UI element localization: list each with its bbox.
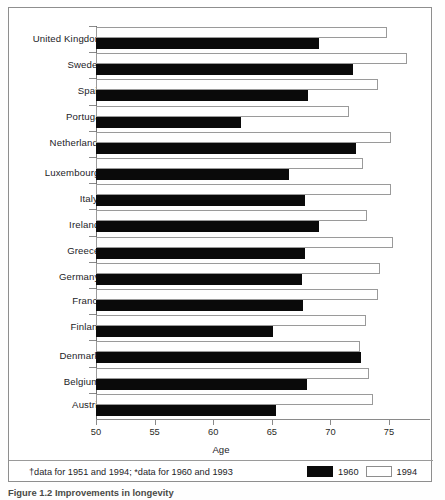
bar-1960 [96, 405, 276, 416]
bar-1994 [96, 158, 363, 169]
y-axis-tick [89, 183, 96, 184]
x-tick-mark [389, 419, 390, 425]
x-tick-mark [213, 419, 214, 425]
x-tick-mark [272, 419, 273, 425]
bar-1960 [96, 352, 361, 363]
category-label: Portugal [0, 111, 103, 122]
bar-1994 [96, 394, 373, 405]
bar-1994 [96, 106, 349, 117]
bar-1960 [96, 379, 307, 390]
category-label: Germany* [0, 268, 103, 282]
x-tick-mark [330, 419, 331, 425]
y-axis-tick [89, 393, 96, 394]
bar-1960 [96, 221, 319, 232]
legend-item: 1960 [307, 466, 358, 477]
bar-1994 [96, 79, 378, 90]
x-axis-title: Age [9, 444, 433, 455]
bar-1994 [96, 289, 378, 300]
category-label: Belgium* [0, 373, 103, 387]
x-tick-label: 50 [91, 427, 101, 437]
bar-1960 [96, 300, 303, 311]
y-axis-tick [89, 314, 96, 315]
bar-1994 [96, 341, 360, 352]
category-label: France [0, 295, 103, 306]
plot-area: United KingdomSwedenSpainPortugalNetherl… [9, 8, 433, 483]
bar-1960 [96, 143, 356, 154]
footnote-text: †data for 1951 and 1994; *data for 1960 … [29, 467, 233, 477]
legend-label: 1994 [397, 467, 417, 477]
bar-1960 [96, 64, 353, 75]
x-tick-label: 55 [149, 427, 159, 437]
category-label: Spain [0, 85, 103, 96]
bar-1994 [96, 210, 367, 221]
category-label: Finland [0, 321, 103, 332]
bar-1960 [96, 326, 273, 337]
category-label: Netherlands [0, 137, 103, 148]
y-axis-tick [89, 52, 96, 53]
y-axis-tick [89, 340, 96, 341]
bar-1960 [96, 38, 319, 49]
figure-caption: Figure 1.2 Improvements in longevity [8, 487, 438, 500]
bar-1994 [96, 315, 366, 326]
y-axis-tick [89, 209, 96, 210]
x-tick-mark [155, 419, 156, 425]
bar-1994 [96, 368, 369, 379]
y-axis-tick [89, 288, 96, 289]
chart-frame: United KingdomSwedenSpainPortugalNetherl… [8, 7, 432, 482]
legend: 19601994 [307, 466, 417, 477]
legend-swatch [366, 466, 392, 477]
y-axis-tick [89, 236, 96, 237]
legend-label: 1960 [338, 467, 358, 477]
category-label: Denmark* [0, 347, 103, 361]
category-label: United Kingdom [0, 33, 103, 44]
bar-1994 [96, 184, 391, 195]
x-axis-line [96, 419, 430, 420]
y-axis-tick [89, 262, 96, 263]
y-axis-tick [89, 26, 96, 27]
y-axis-tick [89, 78, 96, 79]
footer-divider [9, 460, 433, 461]
x-tick-label: 70 [325, 427, 335, 437]
category-label: Austria [0, 399, 103, 410]
bar-1960 [96, 169, 289, 180]
bar-1960 [96, 195, 305, 206]
x-tick-label: 75 [384, 427, 394, 437]
bar-1994 [96, 263, 380, 274]
y-axis-tick [89, 105, 96, 106]
bar-1994 [96, 237, 393, 248]
category-label: Greece* [0, 242, 103, 256]
figure-container: United KingdomSwedenSpainPortugalNetherl… [0, 0, 445, 500]
x-tick-mark [96, 419, 97, 425]
bar-1994 [96, 132, 391, 143]
bar-1994 [96, 27, 387, 38]
bar-1960 [96, 90, 308, 101]
legend-swatch [307, 466, 333, 477]
x-tick-label: 65 [267, 427, 277, 437]
category-label: Luxembourg* [0, 164, 103, 178]
category-label: Sweden [0, 59, 103, 70]
category-label: Italy† [0, 190, 103, 204]
bar-1960 [96, 274, 302, 285]
y-axis-tick [89, 131, 96, 132]
bar-1994 [96, 53, 407, 64]
bar-1960 [96, 117, 241, 128]
x-tick-label: 60 [208, 427, 218, 437]
category-label: Ireland* [0, 216, 103, 230]
bar-1960 [96, 248, 305, 259]
y-axis-tick [89, 157, 96, 158]
y-axis-tick [89, 367, 96, 368]
legend-item: 1994 [366, 466, 417, 477]
